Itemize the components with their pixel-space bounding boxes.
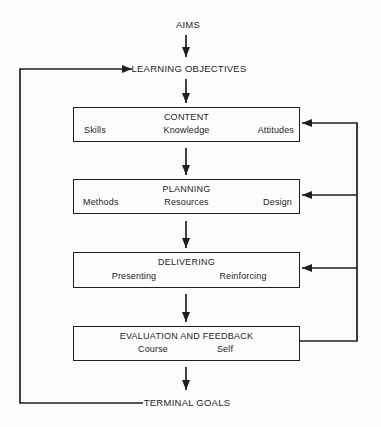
box-label: Skills [84,125,106,135]
box-title: CONTENT [74,112,299,122]
box-labels: Methods Resources Design [74,197,299,209]
flow-box-planning: PLANNING Methods Resources Design [73,179,300,214]
box-label: Resources [164,197,208,207]
box-label: Methods [83,197,119,207]
box-labels: Skills Knowledge Attitudes [74,125,299,137]
flow-box-delivering: DELIVERING Presenting Reinforcing [73,252,300,288]
box-label: Attitudes [258,125,294,135]
node-aims: AIMS [176,20,200,30]
feedback-loop-evaluation-to-content-icon [300,123,357,341]
flow-box-content: CONTENT Skills Knowledge Attitudes [73,107,300,142]
flow-box-evaluation-feedback: EVALUATION AND FEEDBACK Course Self [73,326,300,361]
box-labels: Presenting Reinforcing [74,271,299,283]
box-label: Presenting [112,271,157,281]
box-label: Knowledge [164,125,210,135]
node-terminal-goals: TERMINAL GOALS [144,398,231,408]
box-labels: Course Self [74,344,299,356]
box-title: DELIVERING [74,257,299,267]
box-label: Design [263,197,292,207]
box-label: Self [217,344,233,354]
node-learning-objectives: LEARNING OBJECTIVES [131,64,246,74]
box-label: Reinforcing [219,271,266,281]
box-label: Course [138,344,168,354]
box-title: EVALUATION AND FEEDBACK [74,331,299,341]
flowchart-canvas: AIMS LEARNING OBJECTIVES CONTENT Skills … [0,0,381,427]
box-title: PLANNING [74,184,299,194]
